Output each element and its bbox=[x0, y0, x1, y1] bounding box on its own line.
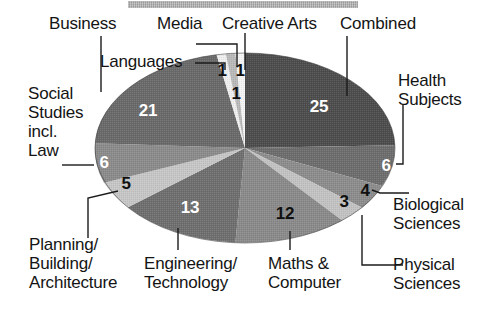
value-maths-computer: 12 bbox=[276, 204, 294, 223]
label-maths-line1: Maths & bbox=[268, 255, 329, 273]
leader-health-subjects bbox=[396, 105, 403, 164]
value-creative-arts: 1 bbox=[231, 84, 240, 103]
value-social-studies: 6 bbox=[99, 153, 108, 172]
label-social-studies-line2: Studies bbox=[28, 104, 83, 122]
label-social-studies-line3: incl. bbox=[28, 123, 57, 141]
label-biological-sciences-line2: Sciences bbox=[393, 215, 460, 233]
label-health-subjects-line2: Subjects bbox=[398, 91, 462, 109]
label-physical-sciences-line1: Physical bbox=[393, 256, 455, 274]
label-combined: Combined bbox=[340, 15, 416, 33]
label-physical-sciences-line2: Sciences bbox=[393, 275, 460, 293]
pie-chart-figure: 25 6 4 3 12 13 5 6 21 1 1 1 bbox=[0, 0, 492, 318]
value-health-subjects: 6 bbox=[381, 156, 390, 175]
label-maths-line2: Computer bbox=[268, 274, 341, 292]
leader-planning bbox=[88, 191, 118, 238]
label-planning-line2: Building/ bbox=[29, 255, 92, 273]
pie-texture-overlay bbox=[95, 53, 395, 243]
value-physical-sciences: 3 bbox=[339, 192, 348, 211]
label-creative-arts: Creative Arts bbox=[222, 15, 317, 33]
label-planning-line3: Architecture bbox=[29, 274, 117, 292]
value-business: 21 bbox=[139, 101, 157, 120]
label-media: Media bbox=[157, 15, 202, 33]
label-engineering-line2: Technology bbox=[144, 274, 228, 292]
label-languages: Languages bbox=[100, 53, 182, 71]
label-planning-line1: Planning/ bbox=[29, 236, 98, 254]
pie-slices bbox=[95, 53, 395, 243]
value-combined: 25 bbox=[310, 97, 328, 116]
label-biological-sciences-line1: Biological bbox=[393, 196, 464, 214]
value-biological-sciences: 4 bbox=[360, 181, 370, 200]
value-planning-building-architecture: 5 bbox=[121, 174, 130, 193]
label-engineering-line1: Engineering/ bbox=[144, 255, 237, 273]
value-engineering-technology: 13 bbox=[181, 198, 199, 217]
label-business: Business bbox=[49, 15, 116, 33]
label-social-studies-line1: Social bbox=[28, 85, 73, 103]
label-social-studies-line4: Law bbox=[28, 142, 59, 160]
label-health-subjects-line1: Health bbox=[398, 72, 446, 90]
